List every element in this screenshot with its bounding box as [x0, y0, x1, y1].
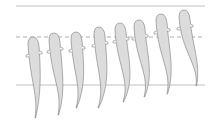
larva-body — [94, 27, 107, 108]
right-fin-icon — [60, 47, 63, 50]
larva-frame-1 — [26, 37, 42, 118]
larva-body — [49, 33, 63, 115]
larva-body — [28, 37, 40, 118]
right-fin-icon — [190, 24, 193, 27]
right-fin-icon — [167, 28, 170, 31]
swimming-sequence-diagram — [0, 0, 218, 126]
larva-frames — [26, 10, 198, 118]
larva-body — [179, 10, 198, 86]
left-fin-icon — [113, 40, 116, 43]
larva-frame-4 — [92, 27, 108, 108]
larva-body — [71, 32, 84, 108]
right-fin-icon — [105, 41, 108, 44]
larva-body — [115, 23, 130, 102]
left-fin-icon — [26, 54, 29, 57]
right-fin-icon — [145, 34, 148, 37]
left-fin-icon — [47, 50, 50, 53]
larva-frame-3 — [69, 32, 85, 108]
right-fin-icon — [82, 46, 85, 49]
left-fin-icon — [69, 49, 72, 52]
larva-frame-5 — [113, 23, 130, 102]
larva-frame-6 — [132, 20, 149, 97]
reference-lines — [16, 6, 205, 85]
left-fin-icon — [177, 27, 180, 30]
right-fin-icon — [39, 51, 42, 54]
larva-frame-8 — [177, 10, 198, 86]
left-fin-icon — [154, 31, 157, 34]
larva-body — [134, 20, 149, 97]
larva-body — [156, 14, 171, 94]
larva-frame-2 — [47, 33, 63, 115]
left-fin-icon — [92, 44, 95, 47]
left-fin-icon — [132, 37, 135, 40]
larva-frame-7 — [154, 14, 171, 94]
right-fin-icon — [126, 37, 129, 40]
